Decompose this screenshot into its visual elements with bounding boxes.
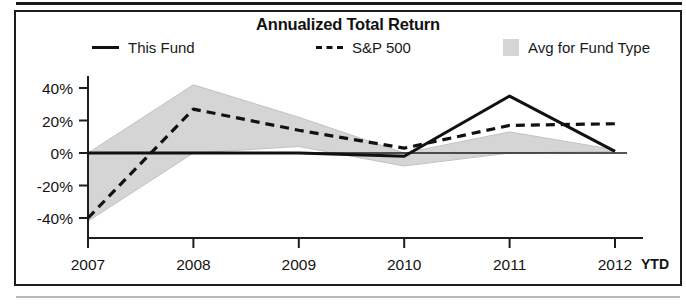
solid-line-swatch-icon bbox=[92, 46, 119, 49]
top-divider-rule bbox=[16, 2, 682, 5]
shaded-box-swatch-icon bbox=[503, 39, 519, 56]
chart-legend: This Fund S&P 500 Avg for Fund Type bbox=[16, 39, 680, 63]
legend-label-avg-fund-type: Avg for Fund Type bbox=[528, 39, 650, 56]
legend-label-sp-500: S&P 500 bbox=[352, 39, 411, 56]
legend-item-sp-500: S&P 500 bbox=[316, 39, 411, 56]
legend-item-avg-fund-type: Avg for Fund Type bbox=[503, 39, 650, 56]
chart-title: Annualized Total Return bbox=[16, 15, 680, 34]
legend-label-this-fund: This Fund bbox=[128, 39, 195, 56]
legend-item-this-fund: This Fund bbox=[92, 39, 195, 56]
bottom-divider-rule bbox=[16, 296, 680, 298]
dashed-line-swatch-icon bbox=[316, 46, 343, 49]
chart-panel: Annualized Total Return This Fund S&P 50… bbox=[14, 10, 682, 286]
